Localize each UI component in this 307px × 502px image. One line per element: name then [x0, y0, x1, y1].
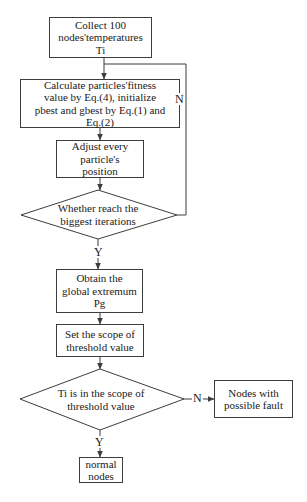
edge-label-scope-yes: Y — [94, 436, 105, 448]
flowchart-connectors — [0, 0, 307, 502]
node-obtain-extremum: Obtain the global extremum Pg — [56, 269, 143, 313]
node-calculate-fitness: Calculate particles'fitness value by Eq.… — [20, 79, 180, 128]
node-collect-temperatures: Collect 100 nodes'temperatures Ti — [49, 17, 152, 58]
node-possible-fault: Nodes with possible fault — [214, 380, 293, 418]
node-set-threshold-scope: Set the scope of threshold value — [56, 324, 144, 357]
edge-label-iteration-no: N — [174, 93, 185, 105]
decision-threshold-scope: Ti is in the scope of threshold value — [31, 385, 171, 414]
decision-biggest-iterations: Whether reach the biggest iterations — [28, 200, 168, 229]
node-adjust-position: Adjust every particle's position — [56, 140, 144, 178]
node-normal-nodes: normal nodes — [79, 457, 123, 483]
edge-label-scope-no: N — [192, 392, 203, 404]
flowchart-canvas: Collect 100 nodes'temperatures Ti Calcul… — [0, 0, 307, 502]
edge-label-iteration-yes: Y — [93, 246, 104, 258]
